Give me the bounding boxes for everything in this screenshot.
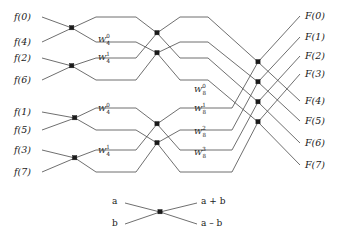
butterfly-node [256, 120, 260, 124]
input-label-f5: f(5) [14, 125, 31, 135]
twiddle-exponent: 1 [202, 102, 206, 108]
legend-output-diff: a – b [201, 219, 222, 228]
legend-butterfly-node [158, 210, 162, 214]
twiddle-label-w4-1-lower: W14 [98, 147, 110, 155]
legend-input-a: a [112, 197, 117, 206]
twiddle-exponent: 0 [202, 83, 206, 89]
twiddle-base: W [98, 104, 106, 113]
input-label-f4: f(4) [14, 37, 31, 47]
twiddle-subscript: 4 [106, 151, 110, 157]
twiddle-base: W [194, 85, 202, 94]
stage-3-edges [208, 16, 300, 172]
butterfly-node [256, 60, 260, 64]
output-label-F1: F(1) [305, 32, 325, 42]
legend-input-b: b [112, 219, 118, 228]
twiddle-exponent: 2 [202, 125, 206, 131]
fft-signal-flow-graph [0, 0, 344, 243]
legend-butterfly [125, 203, 197, 224]
input-label-f3: f(3) [14, 145, 31, 155]
stage-1-edges [42, 17, 136, 172]
input-label-f2: f(2) [14, 53, 31, 63]
twiddle-label-w8-2: W28 [194, 128, 206, 136]
butterfly-node [73, 156, 77, 160]
twiddle-base: W [98, 35, 106, 44]
twiddle-base: W [98, 146, 106, 155]
twiddle-exponent: 0 [106, 33, 110, 39]
twiddle-subscript: 8 [202, 153, 206, 159]
butterfly-node [256, 80, 260, 84]
input-label-f0: f(0) [14, 12, 31, 22]
butterfly-nodes [70, 26, 261, 160]
twiddle-label-w4-0-lower: W04 [98, 105, 110, 113]
input-label-f7: f(7) [14, 167, 31, 177]
fft-butterfly-figure: f(0) f(4) f(2) f(6) f(1) f(5) f(3) f(7) … [0, 0, 344, 243]
butterfly-node [155, 31, 159, 35]
butterfly-node [73, 116, 77, 120]
twiddle-exponent: 0 [106, 102, 110, 108]
twiddle-subscript: 4 [106, 109, 110, 115]
output-label-F6: F(6) [305, 138, 325, 148]
twiddle-label-w8-1: W18 [194, 105, 206, 113]
butterfly-node [155, 141, 159, 145]
twiddle-label-w8-3: W38 [194, 149, 206, 157]
twiddle-label-w4-0-upper: W04 [98, 36, 110, 44]
twiddle-subscript: 8 [202, 109, 206, 115]
butterfly-node [155, 122, 159, 126]
butterfly-node [256, 100, 260, 104]
butterfly-node [70, 64, 74, 68]
twiddle-exponent: 3 [202, 146, 206, 152]
output-label-F7: F(7) [305, 160, 325, 170]
output-label-F5: F(5) [305, 116, 325, 126]
twiddle-label-w8-0: W08 [194, 86, 206, 94]
twiddle-exponent: 1 [106, 144, 110, 150]
twiddle-base: W [194, 148, 202, 157]
butterfly-node [70, 26, 74, 30]
output-label-F3: F(3) [305, 69, 325, 79]
twiddle-base: W [194, 104, 202, 113]
input-label-f6: f(6) [14, 75, 31, 85]
output-label-F4: F(4) [305, 96, 325, 106]
twiddle-base: W [194, 127, 202, 136]
twiddle-subscript: 8 [202, 132, 206, 138]
twiddle-subscript: 8 [202, 90, 206, 96]
twiddle-subscript: 4 [106, 40, 110, 46]
twiddle-label-w4-1-upper: W14 [98, 54, 110, 62]
output-label-F0: F(0) [305, 11, 325, 21]
twiddle-base: W [98, 53, 106, 62]
output-label-F2: F(2) [305, 51, 325, 61]
butterfly-node [155, 51, 159, 55]
input-label-f1: f(1) [14, 107, 31, 117]
legend-output-sum: a + b [201, 197, 225, 206]
twiddle-exponent: 1 [106, 51, 110, 57]
twiddle-subscript: 4 [106, 58, 110, 64]
